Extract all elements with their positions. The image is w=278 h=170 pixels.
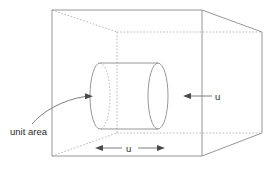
velocity-arrowhead — [183, 93, 191, 99]
box-back-face — [117, 32, 262, 133]
dimension-arrowhead-right — [157, 145, 165, 151]
length-dimension-bottom: u — [95, 143, 165, 154]
unit-area-leader-line — [32, 97, 85, 125]
depth-edge-bottom-left — [52, 133, 117, 156]
depth-edge-bottom-right — [202, 133, 262, 156]
dimension-arrowhead-left — [95, 145, 103, 151]
depth-edge-top-right — [202, 10, 262, 32]
diagram-canvas: unit area u u — [0, 0, 278, 170]
depth-edge-top-left — [52, 10, 117, 32]
unit-area-label: unit area — [10, 126, 48, 137]
cylinder — [90, 63, 168, 129]
cylinder-left-cap-hidden-arc — [100, 63, 110, 129]
length-label-u: u — [126, 143, 131, 154]
unit-area-cube-diagram: unit area u u — [0, 0, 278, 170]
velocity-label-u: u — [215, 91, 220, 102]
cylinder-right-cap — [148, 63, 168, 129]
unit-area-arrowhead — [85, 93, 93, 99]
unit-area-annotation: unit area — [10, 93, 93, 137]
